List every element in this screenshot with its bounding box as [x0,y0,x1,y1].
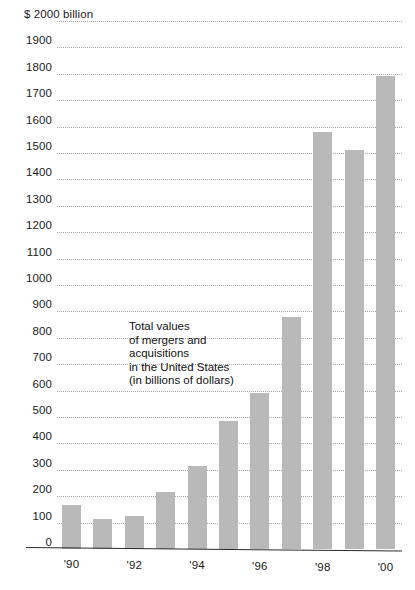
x-axis-tick-label: '98 [303,561,343,573]
bar [345,150,364,549]
bar-chart: $ 2000 billion19001800170016001500140013… [0,0,415,590]
annotation-line: of mergers and [129,334,234,348]
bar [188,466,207,549]
annotation-line: in the United States [129,361,234,375]
bar [313,132,332,549]
chart-annotation: Total valuesof mergers andacquisitionsin… [129,320,234,388]
bar [219,421,238,549]
x-axis-tick-label: '90 [52,558,92,570]
bar [282,317,301,549]
annotation-line: acquisitions [129,347,234,361]
bar [250,393,269,549]
plot-area: $ 2000 billion19001800170016001500140013… [0,0,415,590]
bar [125,516,144,549]
x-axis-tick-label: '92 [114,559,154,571]
bar [93,519,112,549]
bar [62,505,81,549]
annotation-line: Total values [129,320,234,334]
x-axis-tick-label: '94 [177,559,217,571]
bars-group [0,0,415,549]
x-axis-tick-label: '96 [240,560,280,572]
annotation-line: (in billions of dollars) [129,374,234,388]
bar [376,76,395,549]
x-axis-tick-label: '00 [366,561,406,573]
bar [156,492,175,549]
